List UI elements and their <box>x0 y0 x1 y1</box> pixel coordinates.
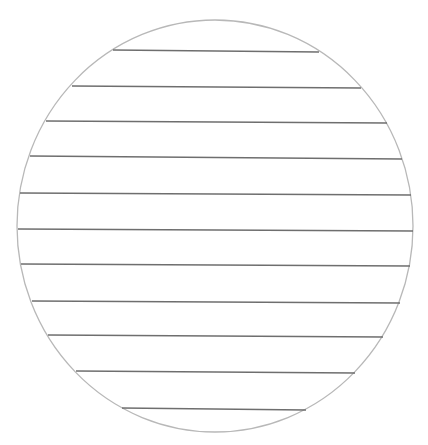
horizontal-line-5 <box>20 193 411 195</box>
horizontal-line-4 <box>30 156 402 159</box>
circle-outline <box>17 20 413 432</box>
horizontal-line-7 <box>21 264 410 266</box>
horizontal-line-10 <box>76 371 355 373</box>
horizontal-line-1 <box>113 50 319 52</box>
horizontal-lines <box>18 50 413 410</box>
lined-circle-diagram <box>0 0 428 445</box>
horizontal-line-3 <box>46 121 387 123</box>
horizontal-line-11 <box>122 408 306 410</box>
horizontal-line-2 <box>72 86 361 88</box>
horizontal-line-6 <box>18 229 413 231</box>
horizontal-line-8 <box>32 301 400 303</box>
horizontal-line-9 <box>48 335 383 337</box>
